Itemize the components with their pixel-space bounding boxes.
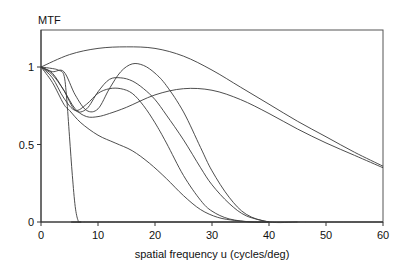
y-tick-label: 0.5	[19, 139, 34, 151]
x-tick-label: 60	[377, 229, 389, 241]
x-tick-label: 50	[320, 229, 332, 241]
curve-2-broad-arc	[41, 47, 383, 166]
x-tick-label: 40	[263, 229, 275, 241]
y-tick-label: 1	[28, 61, 34, 73]
mtf-curves	[41, 47, 383, 223]
x-tick-label: 10	[92, 229, 104, 241]
curve-7-monotonic-decline	[41, 67, 269, 222]
curve-5-peak-0.93	[41, 67, 269, 222]
curve-4-peak-1.02	[41, 63, 298, 222]
curve-6-peak-0.86	[41, 67, 269, 222]
plot-frame	[41, 30, 383, 222]
mtf-chart: 0102030405060 00.51 MTF spatial frequenc…	[0, 0, 405, 274]
y-tick-label: 0	[28, 216, 34, 228]
x-axis-title: spatial frequency u (cycles/deg)	[135, 248, 290, 260]
x-tick-label: 0	[38, 229, 44, 241]
y-axis-ticks: 00.51	[19, 61, 41, 228]
curve-3-low-dip-late-peak	[41, 67, 383, 168]
x-axis-ticks: 0102030405060	[38, 222, 389, 241]
x-tick-label: 20	[149, 229, 161, 241]
x-tick-label: 30	[206, 229, 218, 241]
y-axis-title: MTF	[38, 14, 61, 26]
